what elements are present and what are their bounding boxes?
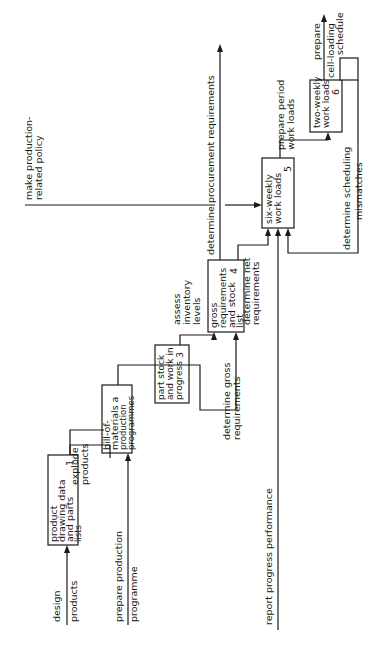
label-prepare: prepare <box>311 23 322 60</box>
arrow-make-policy <box>25 202 262 208</box>
label-products: products <box>68 580 79 622</box>
box4-number: 4 <box>228 268 239 274</box>
box-six-weekly-work-loads: six-weekly work loads 5 <box>262 158 294 228</box>
cell-loading-box <box>340 58 358 80</box>
box6-line2: work loads <box>321 79 331 128</box>
label-schedule: schedule <box>334 12 345 55</box>
box5-number: 5 <box>282 166 293 172</box>
label-determine-procurement: determine procurement requirements <box>205 75 216 255</box>
label-net-requirements: requirements <box>250 261 261 325</box>
label-gross-requirements: requirements <box>231 376 242 440</box>
label-explode-products: products <box>79 443 90 485</box>
label-report-progress: report progress performance <box>263 488 274 625</box>
box-two-weekly-work-loads: two-weekly work loads 6 <box>310 76 342 132</box>
arrow-procurement-requirements <box>217 44 223 260</box>
label-levels: levels <box>191 297 202 325</box>
production-planning-diagram: product drawing data and parts lists 1 b… <box>0 0 379 664</box>
label-related-policy: related policy <box>33 135 44 200</box>
arrow-report-progress <box>275 228 281 630</box>
box-part-stock: part stock and work in progress 3 <box>155 345 189 403</box>
label-determine-scheduling: determine scheduling <box>341 147 352 250</box>
label-mismatches: mismatches <box>353 162 364 220</box>
box5-line2: work loads <box>272 173 283 224</box>
box-gross-requirements: gross requirements and stock list 4 <box>208 260 245 332</box>
box3-number: 3 <box>174 352 185 358</box>
arrow-box3-to-box4 <box>180 332 217 345</box>
label-period-work-loads: work loads <box>285 99 296 150</box>
label-prepare-production: prepare production <box>113 531 124 622</box>
box1-line4: lists <box>73 525 83 542</box>
box2-line4: programmes <box>126 395 136 450</box>
box6-number: 6 <box>330 89 341 95</box>
label-design: design <box>51 590 62 622</box>
arrow-box4-to-box5 <box>238 228 271 260</box>
label-programme: programme <box>128 566 139 622</box>
box3-line3: progress <box>174 361 184 400</box>
box-bill-of-materials: bill-of- materials a production programm… <box>101 385 136 453</box>
